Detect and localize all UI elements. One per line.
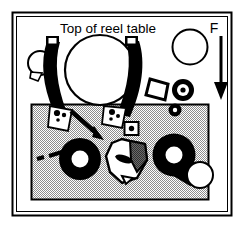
left-capstan-hub <box>59 138 101 180</box>
secondary-reel <box>173 30 208 65</box>
figure-title: Top of reel table <box>60 21 156 36</box>
tilted-square-plate <box>146 79 168 100</box>
left-arm-bracket <box>48 106 72 131</box>
detail-square-marker <box>125 122 139 135</box>
reel-table-diagram: Top of reel table F <box>0 0 245 230</box>
small-ring <box>169 104 182 117</box>
right-arm-bracket <box>102 106 126 128</box>
force-label: F <box>210 20 219 36</box>
figure-root: Top of reel table F <box>0 0 245 230</box>
washer-pulley <box>172 79 194 101</box>
pinch-roller <box>187 162 213 188</box>
